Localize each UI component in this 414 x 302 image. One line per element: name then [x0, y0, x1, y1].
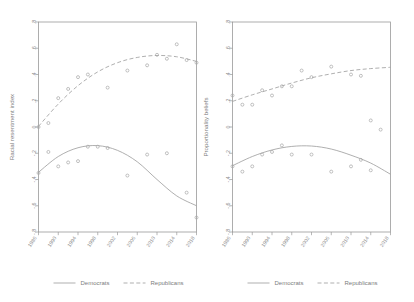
y-tick-label: -.6	[31, 203, 37, 209]
data-point-republicans	[350, 73, 353, 76]
data-point-democrats	[185, 191, 188, 194]
legend-label-democrats: Democrats	[275, 280, 304, 286]
y-tick-label: .6	[31, 46, 37, 50]
data-point-republicans	[106, 86, 109, 89]
x-tick-label: 1990	[240, 235, 252, 248]
data-point-republicans	[77, 76, 80, 79]
legend-label-democrats: Democrats	[81, 280, 110, 286]
y-tick-label: -.2	[225, 150, 231, 156]
data-point-democrats	[67, 161, 70, 164]
data-point-republicans	[146, 64, 149, 67]
y-tick-label: -.8	[31, 229, 37, 235]
data-point-democrats	[310, 153, 313, 156]
y-tick-label: .2	[31, 98, 37, 102]
y-tick-label: 0	[225, 125, 231, 128]
data-point-democrats	[241, 170, 244, 173]
x-tick-label: 1986	[26, 235, 38, 248]
x-tick-label: 2014	[165, 235, 177, 248]
y-tick-label: .6	[225, 46, 231, 50]
plot-frame	[233, 22, 391, 232]
y-tick-label: .4	[225, 72, 231, 76]
data-point-republicans	[251, 103, 254, 106]
data-point-democrats	[251, 165, 254, 168]
data-point-democrats	[57, 165, 60, 168]
x-tick-label: 2002	[105, 235, 117, 248]
plot-frame	[39, 22, 197, 232]
data-point-republicans	[86, 73, 89, 76]
y-tick-label: .8	[225, 20, 231, 24]
data-point-republicans	[271, 94, 274, 97]
data-point-republicans	[369, 119, 372, 122]
x-tick-label: 1998	[86, 235, 98, 248]
legend-left: DemocratsRepublicans	[54, 280, 184, 286]
data-point-republicans	[67, 87, 70, 90]
fit-line-democrats	[39, 146, 197, 206]
legend-label-republicans: Republicans	[151, 280, 184, 286]
x-tick-label: 1986	[220, 235, 232, 248]
legend-right: DemocratsRepublicans	[248, 280, 378, 286]
x-tick-label: 2006	[125, 235, 137, 248]
data-point-democrats	[330, 170, 333, 173]
data-point-republicans	[261, 89, 264, 92]
y-tick-label: -.8	[225, 229, 231, 235]
y-axis-title: Racial resentment index	[8, 93, 15, 160]
data-point-democrats	[271, 150, 274, 153]
x-tick-label: 2006	[319, 235, 331, 248]
y-axis-title: Proportionality beliefs	[202, 97, 209, 156]
data-point-democrats	[146, 153, 149, 156]
x-tick-label: 1994	[260, 235, 272, 248]
data-point-democrats	[261, 153, 264, 156]
data-point-democrats	[290, 153, 293, 156]
data-point-republicans	[290, 85, 293, 88]
data-point-republicans	[330, 65, 333, 68]
y-tick-label: 0	[31, 125, 37, 128]
legend-label-republicans: Republicans	[345, 280, 378, 286]
data-point-democrats	[165, 152, 168, 155]
x-tick-label: 2018	[184, 235, 196, 248]
data-point-republicans	[126, 69, 129, 72]
x-tick-label: 1990	[46, 235, 58, 248]
data-point-democrats	[47, 150, 50, 153]
fit-line-republicans	[39, 55, 197, 126]
x-tick-label: 2010	[145, 235, 157, 248]
data-point-republicans	[57, 97, 60, 100]
panel-right: .8.6.4.20-.2-.4-.6-.81986199019941998200…	[202, 20, 391, 248]
data-point-democrats	[350, 165, 353, 168]
y-tick-label: -.4	[225, 176, 231, 182]
data-point-republicans	[175, 43, 178, 46]
x-tick-label: 1998	[280, 235, 292, 248]
data-point-democrats	[369, 169, 372, 172]
panel-left: .8.6.4.20-.2-.4-.6-.81986199019941998200…	[8, 20, 199, 248]
chart-svg: .8.6.4.20-.2-.4-.6-.81986199019941998200…	[0, 0, 414, 302]
y-tick-label: -.6	[225, 203, 231, 209]
data-point-democrats	[126, 174, 129, 177]
x-tick-label: 2018	[378, 235, 390, 248]
y-tick-label: .2	[225, 98, 231, 102]
data-point-republicans	[165, 57, 168, 60]
y-tick-label: .8	[31, 20, 37, 24]
x-tick-label: 2010	[339, 235, 351, 248]
figure-container: .8.6.4.20-.2-.4-.6-.81986199019941998200…	[0, 0, 414, 302]
fit-line-democrats	[233, 146, 391, 174]
y-tick-label: .4	[31, 72, 37, 76]
data-point-democrats	[280, 144, 283, 147]
y-tick-label: -.2	[31, 150, 37, 156]
data-point-republicans	[359, 74, 362, 77]
x-tick-label: 2002	[299, 235, 311, 248]
data-point-republicans	[47, 122, 50, 125]
data-point-republicans	[379, 128, 382, 131]
data-point-democrats	[77, 160, 80, 163]
fit-line-republicans	[233, 67, 391, 101]
data-point-republicans	[241, 103, 244, 106]
x-tick-label: 1994	[66, 235, 78, 248]
data-point-republicans	[300, 69, 303, 72]
x-tick-label: 2014	[359, 235, 371, 248]
y-tick-label: -.4	[31, 176, 37, 182]
